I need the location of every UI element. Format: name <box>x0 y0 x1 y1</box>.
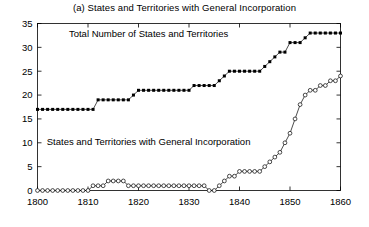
data-point <box>177 184 181 188</box>
data-point <box>288 131 292 135</box>
data-point <box>304 36 307 39</box>
data-point <box>152 89 155 92</box>
data-point <box>283 141 287 145</box>
data-point <box>101 184 105 188</box>
chart-series-group <box>36 32 343 193</box>
data-point <box>223 74 226 77</box>
chart-figure: (a) States and Territories with General … <box>0 0 369 227</box>
data-point <box>334 79 338 83</box>
data-point <box>308 88 312 92</box>
data-point <box>329 32 332 35</box>
data-point <box>318 84 322 88</box>
y-tick-label: 20 <box>22 89 33 100</box>
data-point <box>334 32 337 35</box>
data-point <box>36 108 39 111</box>
data-point <box>127 98 130 101</box>
data-point <box>213 84 216 87</box>
data-point <box>147 89 150 92</box>
data-point <box>41 108 44 111</box>
data-point <box>41 189 45 193</box>
data-point <box>233 70 236 73</box>
data-point <box>36 189 40 193</box>
chart-annotations: Total Number of States and TerritoriesSt… <box>47 28 251 147</box>
data-point <box>309 32 312 35</box>
data-point <box>202 184 206 188</box>
data-point <box>188 89 191 92</box>
data-point <box>324 32 327 35</box>
data-point <box>117 98 120 101</box>
data-point <box>167 89 170 92</box>
x-tick-label: 1830 <box>178 196 199 207</box>
series-1 <box>36 32 342 111</box>
data-point <box>289 41 292 44</box>
data-point <box>107 98 110 101</box>
data-point <box>243 70 246 73</box>
data-point <box>273 55 276 58</box>
data-point <box>126 184 130 188</box>
data-point <box>208 84 211 87</box>
data-point <box>233 174 237 178</box>
data-point <box>157 184 161 188</box>
data-point <box>192 184 196 188</box>
data-point <box>71 108 74 111</box>
data-point <box>177 89 180 92</box>
y-tick-label: 10 <box>22 137 33 148</box>
data-point <box>294 41 297 44</box>
data-point <box>253 170 257 174</box>
data-point <box>91 184 95 188</box>
data-point <box>56 189 60 193</box>
data-point <box>182 89 185 92</box>
data-point <box>187 184 191 188</box>
series-2 <box>36 74 343 192</box>
data-point <box>339 74 343 78</box>
data-point <box>172 184 176 188</box>
y-tick-label: 0 <box>27 185 32 196</box>
data-point <box>329 79 333 83</box>
data-point <box>258 170 262 174</box>
data-point <box>238 170 242 174</box>
x-tick-label: 1860 <box>330 196 351 207</box>
y-tick-label: 35 <box>22 18 33 29</box>
data-point <box>66 108 69 111</box>
data-point <box>207 189 211 193</box>
y-tick-label: 5 <box>27 161 32 172</box>
data-point <box>81 189 85 193</box>
data-point <box>323 84 327 88</box>
data-point <box>222 179 226 183</box>
data-point <box>197 184 201 188</box>
data-point <box>96 184 100 188</box>
data-point <box>106 179 110 183</box>
data-point <box>198 84 201 87</box>
data-point <box>212 189 216 193</box>
data-point <box>313 88 317 92</box>
data-point <box>46 108 49 111</box>
data-point <box>172 89 175 92</box>
data-point <box>152 184 156 188</box>
x-axis-tick-labels: 1800181018201830184018501860 <box>27 196 351 207</box>
data-point <box>167 184 171 188</box>
data-point <box>76 189 80 193</box>
data-point <box>51 108 54 111</box>
data-point <box>203 84 206 87</box>
y-tick-label: 30 <box>22 42 33 53</box>
x-tick-label: 1850 <box>279 196 300 207</box>
chart-plot-area: 1800181018201830184018501860 05101520253… <box>0 0 369 227</box>
data-point <box>278 51 281 54</box>
x-axis-ticks <box>38 24 341 191</box>
y-axis-ticks <box>38 24 341 191</box>
data-point <box>303 93 307 97</box>
data-point <box>253 70 256 73</box>
data-point <box>339 32 342 35</box>
series-annotation-2: States and Territories with General Inco… <box>47 136 251 147</box>
data-point <box>137 89 140 92</box>
data-point <box>92 108 95 111</box>
data-point <box>51 189 55 193</box>
data-point <box>217 184 221 188</box>
x-tick-label: 1800 <box>27 196 48 207</box>
data-point <box>102 98 105 101</box>
data-point <box>142 89 145 92</box>
data-point <box>263 65 266 68</box>
data-point <box>263 165 267 169</box>
data-point <box>268 60 271 63</box>
data-point <box>162 89 165 92</box>
